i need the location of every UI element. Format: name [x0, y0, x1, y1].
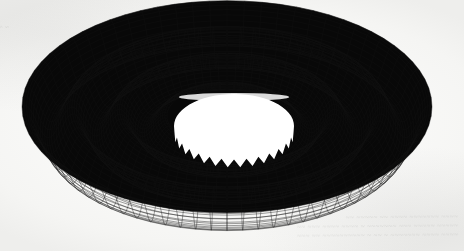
mesh-surface-plot	[0, 0, 464, 251]
wireframe-mesh	[22, 1, 432, 231]
scanned-page: ~ ~~ ~~~~~ ~~ ~~~~~ ~~ ~~~~ ~~~~~~~ ~~~~…	[0, 0, 464, 251]
surface-plot-svg	[0, 0, 464, 251]
